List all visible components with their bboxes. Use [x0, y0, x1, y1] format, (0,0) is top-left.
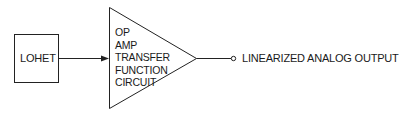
op-amp-line-5: CIRCUIT [115, 76, 170, 89]
lohet-label: LOHET [20, 52, 56, 64]
op-amp-line-1: OP [115, 26, 170, 39]
op-amp-line-3: TRANSFER [115, 51, 170, 64]
output-terminal-icon [231, 56, 235, 60]
op-amp-label: OP AMP TRANSFER FUNCTION CIRCUIT [115, 26, 170, 89]
output-label: LINEARIZED ANALOG OUTPUT [242, 52, 399, 64]
op-amp-line-2: AMP [115, 39, 170, 52]
op-amp-line-4: FUNCTION [115, 64, 170, 77]
arrowhead-icon [101, 56, 109, 62]
